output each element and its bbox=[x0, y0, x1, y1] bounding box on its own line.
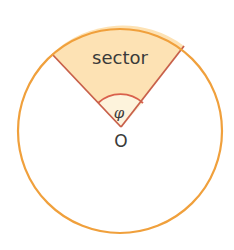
sector-label: sector bbox=[92, 47, 148, 68]
center-label: O bbox=[114, 131, 127, 151]
sector-diagram: sector φ O bbox=[0, 0, 234, 250]
angle-label: φ bbox=[114, 104, 125, 122]
